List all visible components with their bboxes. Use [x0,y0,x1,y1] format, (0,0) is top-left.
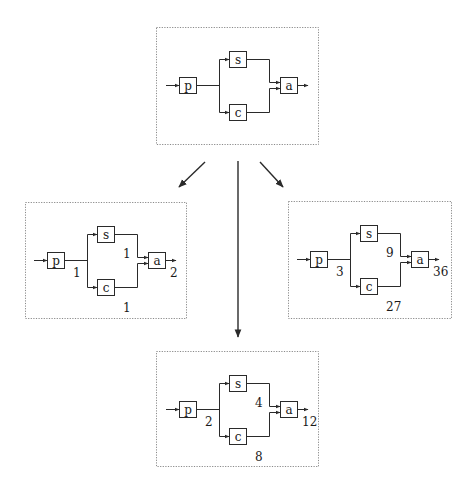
node-a: a [281,78,298,94]
node-label: a [416,253,423,267]
node-s: s [230,52,247,68]
node-a: a [412,252,429,268]
node-a: a [281,402,298,418]
diagram-template: psca [157,28,319,145]
value-label-p: 2 [205,415,213,429]
edge-s-a [377,234,411,257]
diagram-instance-left: psca1112 [26,203,187,319]
node-s: s [361,226,378,242]
node-label: p [184,79,192,93]
node-s: s [98,227,115,243]
node-label: s [235,377,241,391]
dataflow-diagram-canvas: pscapsca1112psca392736psca24812 [0,0,476,504]
diagram-instance-right: psca392736 [289,202,452,319]
node-p: p [180,402,197,418]
node-p: p [48,253,65,269]
node-label: a [285,79,292,93]
transition-arrow-to-instance-left [179,162,205,187]
value-label-s: 1 [123,247,131,261]
node-p: p [180,78,197,94]
value-label-p: 3 [336,265,344,279]
value-label-s: 4 [255,396,263,410]
node-s: s [230,376,247,392]
transitions-layer [179,161,283,337]
edge-s-a [246,60,280,83]
node-c: c [98,280,115,296]
edge-c-a [114,264,148,288]
value-label-a: 36 [433,265,448,279]
node-label: c [103,281,110,295]
edge-c-a [246,89,280,113]
node-c: c [361,279,378,295]
value-label-c: 8 [255,450,263,464]
node-label: p [315,253,323,267]
node-label: c [235,430,242,444]
edge-c-a [377,263,411,287]
node-label: s [366,227,372,241]
node-label: p [184,403,192,417]
node-p: p [311,252,328,268]
value-label-a: 2 [170,266,178,280]
diagram-instance-bottom: psca24812 [157,352,319,467]
value-label-p: 1 [73,266,81,280]
edge-s-a [114,235,148,258]
node-c: c [230,429,247,445]
value-label-c: 1 [123,301,131,315]
transition-arrow-to-instance-right [260,162,283,187]
node-a: a [149,253,166,269]
node-label: s [103,228,109,242]
edge-c-a [246,413,280,437]
node-label: c [235,106,242,120]
node-c: c [230,105,247,121]
edge-s-a [246,384,280,407]
value-label-c: 27 [386,300,401,314]
node-label: s [235,53,241,67]
value-label-a: 12 [302,415,317,429]
node-label: c [366,280,373,294]
node-label: a [153,254,160,268]
node-label: p [52,254,60,268]
node-label: a [285,403,292,417]
value-label-s: 9 [386,246,394,260]
